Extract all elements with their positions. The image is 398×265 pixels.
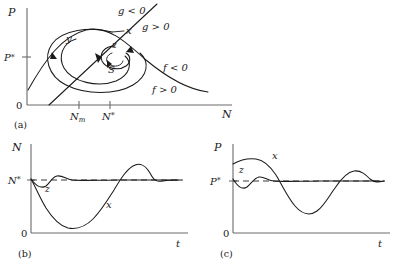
panel-a-arrow-1 (50, 52, 57, 59)
panel-c-xlabel: t (378, 238, 383, 249)
panel-a-ylabel: P (7, 6, 16, 19)
panel-a-ytick-label-Pstar: P* (3, 52, 15, 63)
panel-a-region-g-negative: g < 0 (118, 5, 146, 16)
panel-a-xlabel: N (221, 108, 232, 121)
panel-a-f-nullcline (28, 29, 208, 92)
panel-a-region-f-negative: f < 0 (162, 62, 188, 73)
panel-c-label-x: x (272, 150, 278, 161)
panel-a-x-leader (112, 31, 124, 32)
panel-a-origin: 0 (16, 100, 22, 111)
panel-a-label-x: x (126, 25, 132, 36)
panel-a-label-S: S (108, 64, 115, 75)
panel-b-label-z: z (44, 184, 50, 194)
panel-a-caption: (a) (14, 119, 27, 130)
panel-b-ytick-label-Nstar: N* (7, 175, 21, 186)
panel-b-ylabel: N (11, 141, 22, 154)
panel-b-origin: 0 (21, 228, 27, 239)
panel-b-trajectory-z (31, 176, 178, 187)
panel-b: N t 0 N* z x (b) (7, 141, 188, 259)
panel-a-label-y: y (65, 33, 72, 44)
panel-c-trajectory-z (233, 177, 380, 188)
panel-a-label-z: z (111, 40, 117, 50)
panel-a-xtick-label-Nm: Nm (69, 111, 86, 124)
panel-b-trajectory-x (31, 164, 181, 228)
figure-container: P N 0 P* Nm N* x y z S g < 0 g > 0 f < 0… (0, 0, 398, 265)
panel-c-ylabel: P (213, 141, 222, 154)
panel-a-g-nullcline (49, 4, 157, 105)
panel-a-region-g-positive: g > 0 (142, 21, 170, 32)
panel-a-region-f-positive: f > 0 (151, 84, 177, 95)
panel-c-origin: 0 (223, 228, 229, 239)
panel-b-xlabel: t (176, 238, 181, 249)
panel-b-label-x: x (106, 199, 112, 210)
panel-c: P t 0 P* z x (c) (209, 141, 390, 259)
panel-c-label-z: z (238, 165, 244, 175)
panel-a-xtick-label-Nstar: N* (101, 111, 115, 122)
panel-c-ytick-label-Pstar: P* (209, 176, 221, 187)
panel-b-caption: (b) (18, 248, 32, 259)
panel-c-trajectory-x (233, 159, 384, 214)
panel-a-arrow-3 (126, 46, 134, 53)
panel-a: P N 0 P* Nm N* x y z S g < 0 g > 0 f < 0… (3, 4, 232, 130)
panel-c-caption: (c) (220, 248, 233, 259)
